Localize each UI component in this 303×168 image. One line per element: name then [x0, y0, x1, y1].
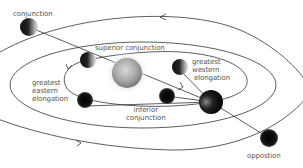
label-line: elongation — [192, 74, 230, 82]
planet-eastern-elongation — [77, 92, 93, 108]
label-line: western — [192, 66, 230, 74]
label-line: elongation — [32, 95, 68, 103]
planet-inferior-conjunction — [159, 88, 175, 104]
sun — [112, 58, 142, 88]
planet-superior-conjunction — [80, 52, 96, 68]
label-greatest-eastern-elongation: greatest eastern elongation — [32, 79, 68, 103]
label-line: eastern — [32, 87, 68, 95]
label-opposition: oppostion — [247, 152, 281, 160]
label-superior-conjunction: superior conjunction — [95, 44, 165, 52]
label-line: greatest — [192, 58, 230, 66]
label-conjunction: conjunction — [13, 10, 53, 18]
planet-western-elongation — [172, 59, 188, 75]
label-line: conjunction — [126, 114, 166, 122]
label-line: inferior — [126, 106, 166, 114]
arrow-top-icon — [160, 14, 166, 20]
planet-conjunction — [20, 18, 38, 36]
planet-earth — [199, 90, 223, 114]
label-inferior-conjunction: inferior conjunction — [126, 106, 166, 122]
label-line: greatest — [32, 79, 68, 87]
label-greatest-western-elongation: greatest western elongation — [192, 58, 230, 82]
planet-opposition — [260, 129, 278, 147]
